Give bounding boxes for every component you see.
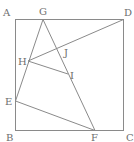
label-c: C	[126, 132, 134, 142]
label-h: H	[18, 56, 27, 67]
label-j: J	[63, 47, 68, 58]
label-i: I	[70, 70, 74, 81]
label-f: F	[91, 132, 98, 142]
label-e: E	[5, 96, 12, 107]
segment-hd	[28, 20, 124, 62]
label-g: G	[39, 6, 47, 17]
label-d: D	[124, 7, 132, 18]
geometry-diagram: A G D H J I E B F C	[0, 0, 134, 142]
label-b: B	[6, 132, 13, 142]
segment-hi	[28, 61, 68, 74]
label-a: A	[2, 7, 11, 18]
